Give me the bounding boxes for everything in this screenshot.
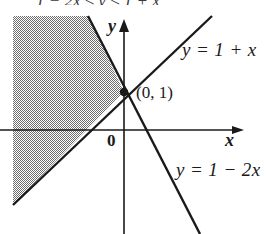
line-label-upper: y = 1 + x <box>182 40 257 59</box>
inequality-region-figure: 1 − 2x ≤ y ≤ 1 + x <box>0 0 268 234</box>
intersection-point-label: (0, 1) <box>136 84 173 101</box>
line-label-lower: y = 1 − 2x <box>176 160 261 179</box>
plot-canvas <box>0 0 268 234</box>
origin-label: 0 <box>107 132 116 149</box>
y-axis-arrowhead <box>119 19 129 32</box>
shaded-solution-region <box>13 16 124 205</box>
intersection-point-marker <box>120 88 128 96</box>
x-axis-label: x <box>225 131 234 149</box>
y-axis-label: y <box>108 17 116 35</box>
